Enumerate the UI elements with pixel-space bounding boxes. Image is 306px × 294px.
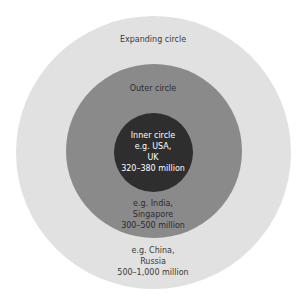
expanding-circle-population: 500–1,000 million: [0, 267, 306, 278]
expanding-circle-example-2: Russia: [0, 256, 306, 267]
inner-circle-population: 320–380 million: [0, 163, 306, 174]
outer-circle-population: 300–500 million: [0, 220, 306, 231]
outer-circle-example-1: e.g. India,: [0, 198, 306, 209]
outer-circle-title: Outer circle: [0, 83, 306, 94]
outer-circle-example-2: Singapore: [0, 209, 306, 220]
expanding-circle-example-1: e.g. China,: [0, 245, 306, 256]
inner-circle-example-1: e.g. USA,: [0, 141, 306, 152]
inner-circle-title: Inner circle: [0, 130, 306, 141]
expanding-circle-title: Expanding circle: [0, 34, 306, 45]
inner-circle-example-2: UK: [0, 152, 306, 163]
